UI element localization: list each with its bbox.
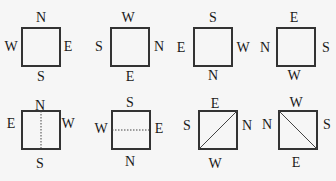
label-top: S <box>122 96 138 110</box>
square <box>110 27 150 67</box>
label-right: E <box>151 122 167 136</box>
label-right: N <box>239 119 255 133</box>
label-left: E <box>173 41 189 55</box>
label-bottom: N <box>122 155 138 169</box>
vertical-dotted-divider <box>21 110 61 150</box>
compass-orientation-diagram: N S W E W E S N S N E W E W N S N S E W <box>0 0 336 181</box>
label-right: N <box>151 40 167 54</box>
label-right: W <box>60 117 76 131</box>
label-right: S <box>319 118 335 132</box>
label-bottom: S <box>32 157 48 171</box>
square <box>21 27 61 67</box>
square <box>276 27 316 67</box>
label-top: E <box>286 11 302 25</box>
label-bottom: S <box>33 70 49 84</box>
label-left: N <box>259 118 275 132</box>
diagonal-divider <box>278 110 318 150</box>
label-left: S <box>179 119 195 133</box>
label-bottom: N <box>205 69 221 83</box>
label-right: S <box>318 41 334 55</box>
label-left: E <box>3 117 19 131</box>
label-bottom: E <box>288 156 304 170</box>
label-left: W <box>93 122 109 136</box>
label-top: N <box>32 99 48 113</box>
label-bottom: E <box>122 70 138 84</box>
label-right: E <box>60 40 76 54</box>
label-bottom: W <box>286 69 302 83</box>
label-top: E <box>207 97 223 111</box>
label-left: S <box>91 40 107 54</box>
label-left: W <box>3 40 19 54</box>
label-bottom: W <box>207 157 223 171</box>
label-top: S <box>205 11 221 25</box>
label-top: W <box>120 11 136 25</box>
label-left: N <box>257 41 273 55</box>
square <box>193 27 233 67</box>
label-top: N <box>33 11 49 25</box>
horizontal-dotted-divider <box>111 110 151 150</box>
diagonal-divider <box>198 110 238 150</box>
label-top: W <box>288 96 304 110</box>
label-right: W <box>235 41 251 55</box>
